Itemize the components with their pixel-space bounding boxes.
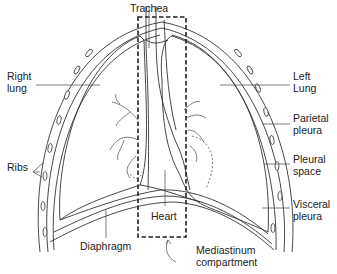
left-bronchi xyxy=(184,101,213,188)
mediastinum-pointer xyxy=(166,240,176,262)
label-parietal-pleura: Parietal pleura xyxy=(293,112,329,136)
label-right-lung: Right lung xyxy=(7,70,32,94)
leader-lines xyxy=(33,6,290,238)
mediastinum-box xyxy=(138,17,186,237)
thorax-diagram xyxy=(0,0,337,274)
label-visceral-pleura: Visceral pleura xyxy=(293,198,330,222)
label-pleural-space: Pleural space xyxy=(293,153,326,177)
right-lung-outline xyxy=(60,36,147,220)
label-heart: Heart xyxy=(151,210,177,222)
label-left-lung: Left Lung xyxy=(293,70,316,94)
label-diaphragm: Diaphragm xyxy=(80,240,131,252)
trachea xyxy=(146,6,190,190)
label-ribs: Ribs xyxy=(7,161,28,173)
label-mediastinum: Mediastinum compartment xyxy=(196,244,257,268)
label-trachea: Trachea xyxy=(130,2,168,14)
